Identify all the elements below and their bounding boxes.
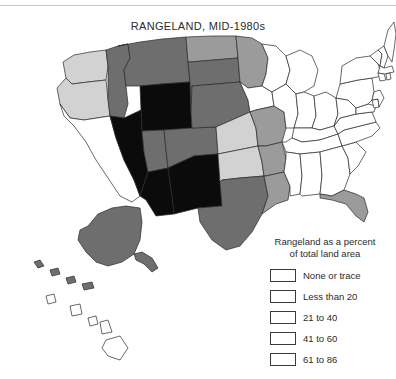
legend-label-21-to-40: 21 to 40 bbox=[303, 312, 337, 323]
legend-label-41-to-60: 41 to 60 bbox=[303, 333, 337, 344]
state-alaska bbox=[78, 206, 142, 266]
legend-swatch-41-to-60 bbox=[270, 332, 296, 345]
legend-swatch-21-to-40 bbox=[270, 311, 296, 324]
state-indiana bbox=[294, 92, 316, 128]
alaska-aleutian-islands bbox=[34, 260, 94, 290]
state-hawaii bbox=[46, 294, 128, 360]
state-ohio bbox=[312, 92, 338, 130]
state-minnesota bbox=[236, 36, 268, 88]
legend-title: Rangeland as a percent of total land are… bbox=[258, 236, 392, 260]
state-michigan bbox=[286, 50, 318, 94]
state-wyoming bbox=[140, 82, 192, 131]
legend-swatch-less-than-20 bbox=[270, 290, 296, 303]
state-montana bbox=[118, 37, 190, 86]
legend-item-less-than-20: Less than 20 bbox=[258, 288, 392, 304]
legend-item-61-to-86: 61 to 86 bbox=[258, 351, 392, 367]
legend-item-none-or-trace: None or trace bbox=[258, 267, 392, 283]
legend-swatch-61-to-86 bbox=[270, 353, 296, 366]
state-washington bbox=[63, 50, 108, 84]
state-north-dakota bbox=[186, 36, 238, 62]
state-alabama bbox=[300, 152, 322, 196]
map-legend: Rangeland as a percent of total land are… bbox=[258, 236, 392, 372]
legend-label-less-than-20: Less than 20 bbox=[303, 291, 357, 302]
state-rhode-island bbox=[386, 73, 391, 80]
legend-title-line2: of total land area bbox=[258, 248, 392, 260]
alaska-panhandle bbox=[134, 252, 158, 272]
legend-label-none-or-trace: None or trace bbox=[303, 270, 361, 281]
legend-label-61-to-86: 61 to 86 bbox=[303, 354, 337, 365]
legend-title-line1: Rangeland as a percent bbox=[258, 236, 392, 248]
state-massachusetts bbox=[378, 66, 394, 74]
legend-item-41-to-60: 41 to 60 bbox=[258, 330, 392, 346]
state-connecticut bbox=[378, 73, 386, 81]
legend-item-21-to-40: 21 to 40 bbox=[258, 309, 392, 325]
legend-swatch-none-or-trace bbox=[270, 269, 296, 282]
